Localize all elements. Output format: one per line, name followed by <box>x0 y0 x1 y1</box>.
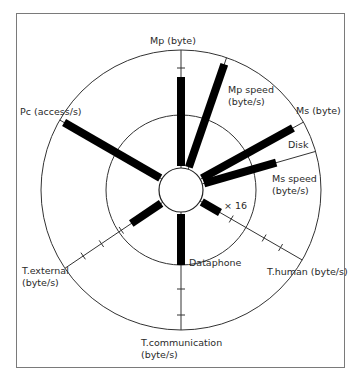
bar-label-dataphone: Dataphone <box>189 257 242 268</box>
bar-label-x16: × 16 <box>224 200 247 211</box>
axis-tick-t-human <box>229 216 233 223</box>
bar-t-human <box>202 202 220 213</box>
axis-label-mp-speed: Mp speed <box>228 84 274 95</box>
axis-label-mp: Mp (byte) <box>150 35 196 46</box>
kiviat-diagram: Mp (byte) Mp speed (byte/s) Ms (byte) Di… <box>0 0 361 380</box>
axis-label-ms-speed: Ms speed <box>272 173 317 184</box>
bar-t-external <box>131 203 161 223</box>
axis-label-mp-speed-unit: (byte/s) <box>228 96 265 107</box>
axis-label-t-communication: T.communication <box>140 337 222 348</box>
axis-label-ms: Ms (byte) <box>296 105 341 116</box>
axis-tick-t-external <box>81 253 85 260</box>
bar-label-disk: Disk <box>288 139 309 150</box>
axis-tick-t-external <box>99 240 103 247</box>
axis-label-t-human: T.human (byte/s) <box>266 266 348 277</box>
center-hub <box>159 168 203 212</box>
axis-label-pc: Pc (access/s) <box>20 106 82 117</box>
axis-label-t-communication-unit: (byte/s) <box>141 349 178 360</box>
axis-tick-t-human <box>262 235 266 242</box>
axis-tick-t-human <box>279 244 283 251</box>
axis-label-ms-speed-unit: (byte/s) <box>272 185 309 196</box>
axis-label-t-external-unit: (byte/s) <box>22 277 59 288</box>
bar-pc <box>64 123 160 179</box>
axis-label-t-external: T.external <box>21 265 69 276</box>
